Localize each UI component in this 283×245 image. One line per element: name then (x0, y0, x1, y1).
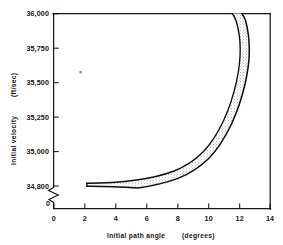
x-axis-title: Initial path angle (degrees) (107, 232, 215, 240)
x-axis-ticks (54, 203, 270, 208)
x-tick-label-4: 4 (114, 214, 118, 223)
y-tick-label-zero: 0 (46, 199, 50, 208)
entry-corridor-chart: 36,000 35,750 35,500 35,250 35,000 34,80… (0, 0, 283, 245)
y-axis-title-main: Initial velocity (10, 116, 18, 165)
y-axis-title-units: (ft/sec) (10, 73, 18, 97)
corridor-upper-edge (87, 14, 240, 184)
x-tick-label-8: 8 (176, 214, 180, 223)
y-tick-label-35500: 35,500 (26, 78, 49, 87)
y-tick-label-35000: 35,000 (26, 147, 49, 156)
corridor-fill (87, 14, 249, 189)
figure-container: 36,000 35,750 35,500 35,250 35,000 34,80… (0, 0, 283, 245)
y-tick-label-34800: 34,800 (26, 182, 49, 191)
x-tick-label-6: 6 (145, 214, 149, 223)
y-axis-title: Initial velocity (ft/sec) (10, 73, 18, 165)
x-tick-label-14: 14 (266, 214, 274, 223)
data-corridor (87, 14, 249, 189)
x-axis-tick-labels: 0 2 4 6 8 10 12 14 (52, 214, 274, 223)
y-tick-label-35250: 35,250 (26, 113, 49, 122)
x-tick-label-2: 2 (83, 214, 87, 223)
scan-speck-artifact (80, 71, 82, 73)
y-tick-label-36000: 36,000 (26, 9, 49, 18)
x-tick-label-12: 12 (236, 214, 244, 223)
x-tick-label-0: 0 (52, 214, 56, 223)
x-axis-title-main: Initial path angle (107, 232, 165, 240)
x-tick-label-10: 10 (205, 214, 213, 223)
y-tick-label-35750: 35,750 (26, 44, 49, 53)
y-axis-ticks (54, 14, 59, 186)
corridor-lower-edge (87, 14, 249, 189)
x-axis-title-units: (degrees) (182, 232, 215, 240)
y-axis-tick-labels: 36,000 35,750 35,500 35,250 35,000 34,80… (26, 9, 50, 207)
